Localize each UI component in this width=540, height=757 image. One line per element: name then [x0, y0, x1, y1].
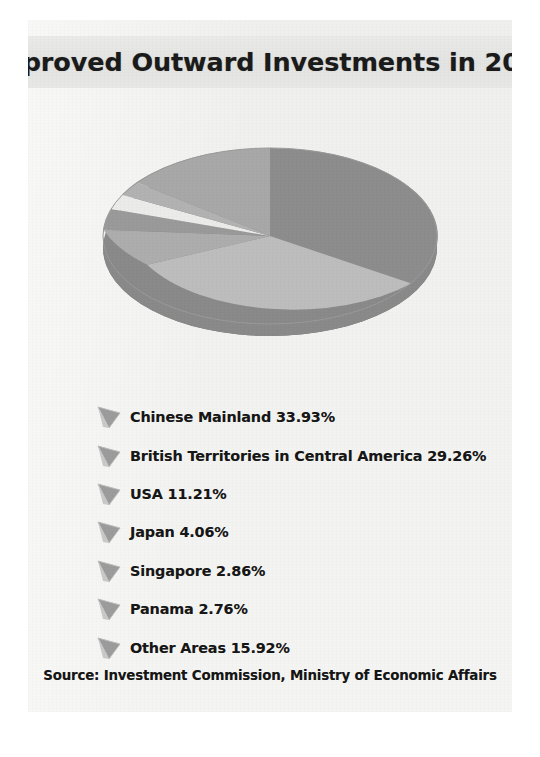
- pie-chart-area: [28, 112, 512, 394]
- pie-chart-3d: [95, 118, 445, 358]
- legend-item-label: Other Areas 15.92%: [130, 640, 290, 656]
- legend-item-panama[interactable]: Panama 2.76%: [96, 590, 506, 628]
- legend-item-other-areas[interactable]: Other Areas 15.92%: [96, 628, 506, 666]
- pie-wedge-swatch-icon: [96, 558, 122, 584]
- pie-wedge-swatch-icon: [96, 635, 122, 661]
- legend-item-label: Chinese Mainland 33.93%: [130, 409, 335, 425]
- legend-item-label: USA 11.21%: [130, 486, 227, 502]
- legend-item-label: Singapore 2.86%: [130, 563, 265, 579]
- legend-item-singapore[interactable]: Singapore 2.86%: [96, 552, 506, 590]
- chart-panel: Approved Outward Investments in 2000: [28, 20, 512, 712]
- title-band: Approved Outward Investments in 2000: [28, 36, 512, 88]
- legend-item-label: British Territories in Central America 2…: [130, 448, 486, 464]
- scanned-page: Approved Outward Investments in 2000: [0, 0, 540, 757]
- pie-wedge-swatch-icon: [96, 481, 122, 507]
- legend: Chinese Mainland 33.93% British Territor…: [96, 398, 506, 667]
- pie-wedge-swatch-icon: [96, 596, 122, 622]
- page-title: Approved Outward Investments in 2000: [28, 47, 512, 77]
- legend-item-label: Panama 2.76%: [130, 601, 248, 617]
- legend-item-label: Japan 4.06%: [130, 524, 229, 540]
- legend-item-usa[interactable]: USA 11.21%: [96, 475, 506, 513]
- legend-item-british-territories[interactable]: British Territories in Central America 2…: [96, 436, 506, 474]
- legend-item-japan[interactable]: Japan 4.06%: [96, 513, 506, 551]
- source-note: Source: Investment Commission, Ministry …: [28, 668, 512, 683]
- legend-item-chinese-mainland[interactable]: Chinese Mainland 33.93%: [96, 398, 506, 436]
- pie-wedge-swatch-icon: [96, 404, 122, 430]
- pie-wedge-swatch-icon: [96, 443, 122, 469]
- pie-wedge-swatch-icon: [96, 519, 122, 545]
